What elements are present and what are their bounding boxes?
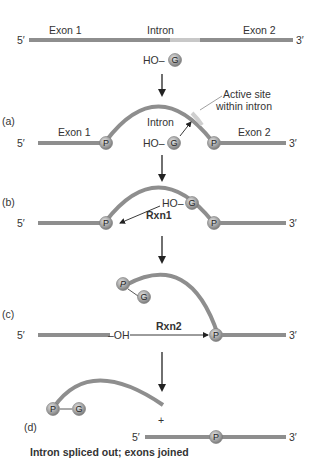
ho-label: HO– [143, 54, 165, 66]
five-prime-label: 5′ [17, 329, 25, 341]
step-b-label: (b) [2, 196, 15, 208]
p-label: P [211, 138, 217, 148]
excised-intron-arc [54, 380, 163, 407]
rxn2-label: Rxn2 [156, 320, 182, 332]
exon1-strand [38, 333, 110, 337]
three-prime-label: 3′ [289, 329, 297, 341]
exon2-strand [220, 141, 286, 145]
step-a-label: (a) [2, 115, 15, 127]
exon1-label: Exon 1 [58, 126, 91, 138]
exon2-strand [220, 221, 286, 225]
active-site-label-2: within intron [215, 100, 272, 112]
five-prime-label: 5′ [17, 34, 25, 46]
splicing-diagram: Exon 1 Intron Exon 2 5′ 3′ HO– G (a) 5′ … [0, 0, 320, 465]
active-site-label: Active site [223, 88, 271, 100]
p-label: P [213, 432, 219, 442]
three-prime-label: 3′ [289, 137, 297, 149]
three-prime-label: 3′ [296, 34, 304, 46]
caption: Intron spliced out; exons joined [30, 446, 189, 458]
step-c: P G (c) 5′ –OH Rxn2 P 3′ [2, 275, 297, 342]
g-label: G [140, 292, 147, 302]
exon1-strand [38, 141, 102, 145]
three-prime-label: 3′ [289, 431, 297, 443]
five-prime-label: 5′ [17, 217, 25, 229]
rxn1-label: Rxn1 [146, 209, 172, 221]
step-c-label: (c) [2, 308, 14, 320]
exon2-label: Exon 2 [238, 126, 271, 138]
active-site-segment [170, 38, 200, 42]
ho-label: HO– [162, 197, 184, 209]
step-b: (b) 5′ P P 3′ HO– G Rxn1 [2, 188, 297, 230]
g-label: G [75, 404, 82, 414]
g-label: G [171, 55, 178, 65]
exon1-strand [38, 221, 102, 225]
p-label: P [103, 138, 109, 148]
step-a: (a) 5′ Exon 1 Intron Active site within … [2, 88, 297, 150]
five-prime-label: 5′ [132, 431, 140, 443]
g-label: G [170, 138, 177, 148]
p-label: P [120, 279, 126, 289]
three-prime-label: 3′ [289, 217, 297, 229]
attack-arrow [180, 122, 191, 136]
intron-label: Intron [147, 24, 174, 36]
step-d: P G + (d) 5′ P 3′ Intron spliced out; ex… [24, 380, 297, 458]
g-label: G [188, 198, 195, 208]
exon2-strand [222, 333, 286, 337]
precursor-strand [29, 38, 293, 42]
precursor-rna: Exon 1 Intron Exon 2 5′ 3′ HO– G [17, 24, 304, 67]
p-label: P [213, 330, 219, 340]
step-d-label: (d) [24, 421, 37, 433]
p-label: P [211, 218, 217, 228]
five-prime-label: 5′ [17, 137, 25, 149]
p-label: P [103, 218, 109, 228]
ho-label: HO– [143, 137, 165, 149]
exon1-label: Exon 1 [49, 24, 82, 36]
plus-sign: + [158, 414, 164, 426]
exon2-label: Exon 2 [243, 24, 276, 36]
intron-label: Intron [147, 116, 174, 128]
oh-label: –OH [108, 329, 130, 341]
bond-line [128, 289, 138, 296]
p-label: P [50, 404, 56, 414]
